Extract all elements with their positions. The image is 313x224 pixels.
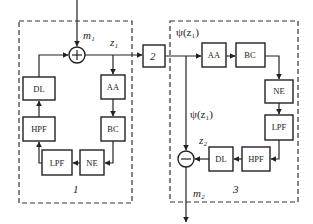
lpf-3-label: LPF [272,122,287,132]
bc-3-label: BC [244,50,256,60]
psi-z1-branch-label: ψ(z₁) [190,108,213,121]
aa-1-label: AA [107,82,120,92]
dl-3-label: DL [215,154,226,164]
z2-label: z₂ [198,134,207,146]
dl-1-label: DL [33,84,44,94]
channel-2-label: 2 [150,50,156,62]
m2-label: m₂ [193,187,205,199]
m1-label: m₁ [83,29,95,41]
aa-3-label: AA [208,50,221,60]
subsystem-3-label: 3 [232,183,239,195]
bc-to-ne-arrow [105,141,113,163]
hpf-3-label: HPF [248,154,264,164]
dl-to-sum-arrow [39,55,68,77]
psi-z1-input-label: ψ(z₁) [176,26,199,39]
difference-junction [178,151,194,167]
block-diagram: DL AA HPF BC LPF NE m₁ z₁ 1 2 AA BC NE L… [0,0,313,224]
sum-junction [69,47,85,63]
subsystem-1-label: 1 [73,183,79,195]
z1-label: z₁ [109,36,118,48]
ne-1-label: NE [86,158,97,168]
bc-1-label: BC [107,124,119,134]
ne-3-label: NE [273,86,284,96]
hpf-1-label: HPF [31,124,47,134]
lpf-to-hpf-3-arrow [271,140,279,159]
bc-to-ne-3-arrow [265,56,279,79]
lpf-1-label: LPF [50,158,65,168]
